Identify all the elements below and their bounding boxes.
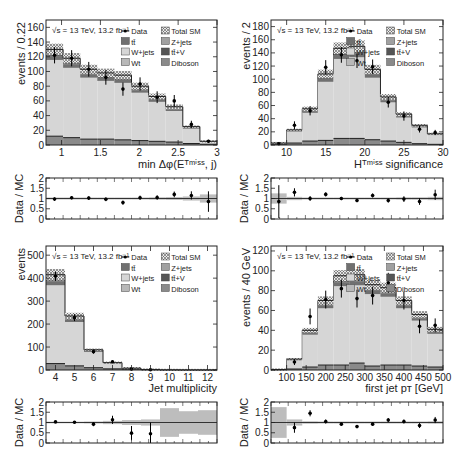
legend-swatch-diboson: [387, 59, 395, 66]
wjets-bar: [183, 128, 200, 145]
legend-swatch-diboson: [387, 285, 395, 292]
ttbar-bar: [132, 90, 149, 92]
ttbar-bar: [318, 79, 334, 82]
ratio-y-tick-label: 1: [263, 417, 269, 428]
chart-panel-min-dphi: 02040608010012014016011.522.53events / 0…: [13, 20, 220, 225]
ratio-point: [54, 420, 58, 424]
legend-label-data: Data: [357, 253, 374, 262]
chart-panel-first-jet-pt: 0204060801001201001502002503003504004505…: [238, 245, 452, 448]
low-bkg-bar: [46, 136, 63, 145]
x-tick-label: 8: [129, 372, 135, 383]
ratio-point: [433, 418, 437, 422]
wjets-bar: [318, 79, 334, 145]
legend-data-icon: [124, 255, 127, 258]
legend-swatch-tt: [347, 38, 355, 45]
ratio-point: [53, 197, 57, 201]
ratio-point: [324, 420, 328, 424]
ratio-point: [340, 197, 344, 201]
low-bkg-bar: [132, 141, 149, 145]
wjets-bar: [132, 90, 149, 145]
legend-swatch-wjets: [121, 274, 129, 281]
ratio-point: [355, 425, 359, 429]
ttbar-bar: [114, 80, 131, 83]
legend-label-diboson: Diboson: [397, 59, 425, 68]
ratio-point: [121, 201, 125, 205]
ratio-y-tick-label: 1.5: [255, 407, 269, 418]
legend-label-tt: tt̄: [131, 38, 136, 47]
ttbar-bar: [46, 281, 65, 285]
legend-swatch-zjets: [387, 38, 395, 45]
x-tick-label: 250: [337, 372, 354, 383]
data-point: [355, 297, 359, 301]
ratio-y-tick-label: 1.5: [30, 407, 44, 418]
x-tick-label: 6: [91, 372, 97, 383]
y-tick-label: 40: [258, 113, 270, 124]
x-axis-label: first jet pᴛ [GeV]: [365, 382, 443, 394]
energy-label: √s = 13 TeV, 13.2 fb⁻¹: [52, 252, 129, 261]
data-point: [386, 281, 390, 285]
ratio-y-tick-label: 0: [38, 214, 44, 225]
legend-label-wjets: W+jets: [357, 274, 380, 283]
legend-label-data: Data: [357, 27, 374, 36]
chart-panel-jet-multiplicity: 0100200300400500456789101112eventsJet mu…: [13, 246, 217, 449]
y-tick-label: 40: [33, 110, 45, 121]
x-tick-label: 15: [320, 147, 332, 158]
y-tick-label: 100: [252, 265, 269, 276]
legend-label-tt: tt̄: [131, 264, 136, 273]
y-tick-label: 0: [263, 140, 269, 151]
data-point: [293, 123, 297, 127]
x-tick-label: 5: [72, 372, 78, 383]
ratio-y-tick-label: 0.5: [30, 427, 44, 438]
x-tick-label: 150: [298, 372, 315, 383]
ratio-y-tick-label: 1: [38, 193, 44, 204]
y-tick-label: 180: [252, 21, 269, 32]
energy-label: √s = 13 TeV, 13.2 fb⁻¹: [277, 252, 354, 261]
legend-swatch-zjets: [161, 264, 169, 271]
legend-swatch-ttv: [387, 48, 395, 55]
legend-swatch-diboson: [161, 59, 169, 66]
data-point: [87, 67, 91, 71]
wjets-bar: [365, 75, 381, 145]
y-tick-label: 60: [258, 100, 270, 111]
legend-label-wt: Wt: [131, 285, 141, 294]
y-axis-label: events / 2: [240, 22, 252, 70]
legend-label-diboson: Diboson: [171, 59, 199, 68]
low-bkg-bar: [334, 138, 350, 145]
x-axis-label: Hᵀᵐⁱˢˢ significance: [354, 158, 443, 170]
ratio-y-axis-label: Data / MC: [238, 398, 250, 448]
ratio-point: [70, 196, 74, 200]
data-point: [371, 294, 375, 298]
y-tick-label: 300: [27, 296, 44, 307]
legend-label-wjets: W+jets: [357, 48, 380, 57]
ratio-point: [92, 422, 96, 426]
legend-label-total: Total SM: [397, 27, 426, 36]
legend-label-zjets: Z+jets: [397, 38, 418, 47]
ratio-y-axis-label: Data / MC: [13, 398, 25, 448]
legend-label-zjets: Z+jets: [171, 264, 192, 273]
legend-swatch-total: [161, 253, 169, 260]
legend-swatch-total: [161, 27, 169, 34]
x-tick-label: 3: [214, 147, 220, 158]
y-tick-label: 120: [27, 51, 44, 62]
low-bkg-bar: [412, 366, 428, 370]
legend-data-icon: [124, 29, 127, 32]
y-tick-label: 60: [33, 95, 45, 106]
y-tick-label: 0: [263, 365, 269, 376]
legend-swatch-wt: [347, 59, 355, 66]
low-bkg-bar: [114, 140, 131, 145]
ratio-y-tick-label: 0.5: [30, 203, 44, 214]
x-tick-label: 4: [53, 372, 59, 383]
legend-data-icon: [349, 255, 352, 258]
legend-swatch-tt: [121, 264, 129, 271]
ratio-y-tick-label: 1: [38, 417, 44, 428]
data-point: [70, 56, 74, 60]
legend-label-diboson: Diboson: [171, 285, 199, 294]
low-bkg-bar: [149, 141, 166, 145]
x-tick-label: 10: [281, 147, 293, 158]
x-tick-label: 7: [110, 372, 116, 383]
y-tick-label: 120: [252, 61, 269, 72]
data-point: [418, 127, 422, 131]
legend-swatch-ttv: [161, 48, 169, 55]
data-point: [92, 350, 96, 354]
x-tick-label: 2.5: [171, 147, 185, 158]
